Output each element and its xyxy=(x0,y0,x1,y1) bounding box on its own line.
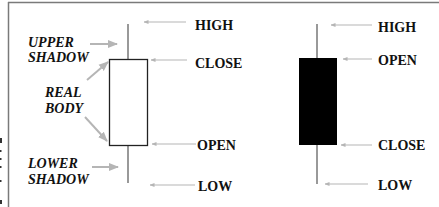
black-high-label: HIGH xyxy=(378,20,416,35)
real-body-label-line2: BODY xyxy=(44,101,85,116)
clipped-edge-marks xyxy=(0,138,2,204)
real-body-label: REAL BODY xyxy=(44,85,85,116)
white-high-label: HIGH xyxy=(195,18,233,33)
upper-shadow-label-line1: UPPER xyxy=(28,35,74,50)
real-body-label-line1: REAL xyxy=(44,85,82,100)
diagram-canvas: UPPER SHADOW REAL BODY LOWER SHADOW HIGH… xyxy=(0,0,439,207)
upper-shadow-label: UPPER SHADOW xyxy=(28,35,90,65)
black-candle xyxy=(299,24,337,184)
black-low-label: LOW xyxy=(378,178,412,193)
black-open-label: OPEN xyxy=(378,53,417,68)
real-body-arrow-up xyxy=(87,62,108,80)
white-open-label: OPEN xyxy=(197,138,236,153)
lower-shadow-label-line2: SHADOW xyxy=(28,172,90,187)
white-candle xyxy=(110,24,148,183)
upper-shadow-label-line2: SHADOW xyxy=(28,50,90,65)
lower-shadow-label-line1: LOWER xyxy=(27,156,78,171)
candlestick-anatomy-diagram: UPPER SHADOW REAL BODY LOWER SHADOW HIGH… xyxy=(0,0,439,207)
white-candle-body xyxy=(110,60,148,146)
black-close-label: CLOSE xyxy=(378,138,425,153)
real-body-arrow-down xyxy=(85,117,107,141)
black-candle-body xyxy=(299,58,337,145)
lower-shadow-label: LOWER SHADOW xyxy=(27,156,90,187)
white-close-label: CLOSE xyxy=(195,56,242,71)
white-low-label: LOW xyxy=(198,179,232,194)
